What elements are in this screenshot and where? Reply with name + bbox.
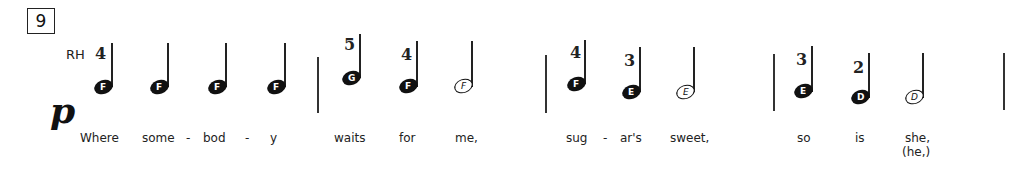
- lyric: is: [855, 131, 865, 145]
- lyric: Where: [80, 131, 119, 145]
- lyric-hyphen: -: [245, 131, 249, 145]
- lyric: some: [142, 131, 175, 145]
- finger-number: 4: [95, 46, 106, 62]
- finger-number: 2: [853, 60, 864, 76]
- lyric-hyphen: -: [603, 131, 607, 145]
- barline: [1003, 53, 1005, 110]
- lyric: y: [270, 131, 277, 145]
- note-stem: [111, 43, 113, 87]
- lyric-hyphen: -: [186, 131, 190, 145]
- note-stem: [284, 43, 286, 87]
- barline: [773, 54, 775, 111]
- lyric: sug: [566, 131, 587, 145]
- lyric-alternate: (he,): [902, 145, 930, 159]
- finger-number: 4: [570, 45, 581, 61]
- lyric: ar's: [620, 131, 642, 145]
- lyric: for: [399, 131, 416, 145]
- finger-number: 3: [796, 52, 807, 68]
- note-stem: [693, 47, 695, 92]
- note-stem: [639, 47, 641, 92]
- lyric: bod: [203, 131, 226, 145]
- note-stem: [167, 43, 169, 87]
- lyric: she,: [905, 131, 930, 145]
- measure-number-box: 9: [27, 8, 55, 34]
- finger-number: 4: [401, 47, 412, 63]
- lyric: sweet,: [670, 131, 709, 145]
- lyric: waits: [334, 131, 365, 145]
- dynamic-marking: p: [50, 92, 75, 128]
- barline: [545, 55, 547, 113]
- hand-label: RH: [66, 47, 85, 62]
- finger-number: 3: [624, 53, 635, 69]
- note-stem: [225, 43, 227, 87]
- note-stem: [584, 40, 586, 84]
- lyric: me,: [455, 131, 478, 145]
- note-stem: [359, 34, 361, 78]
- finger-number: 5: [344, 37, 355, 53]
- barline: [317, 57, 319, 113]
- lyric: so: [797, 131, 811, 145]
